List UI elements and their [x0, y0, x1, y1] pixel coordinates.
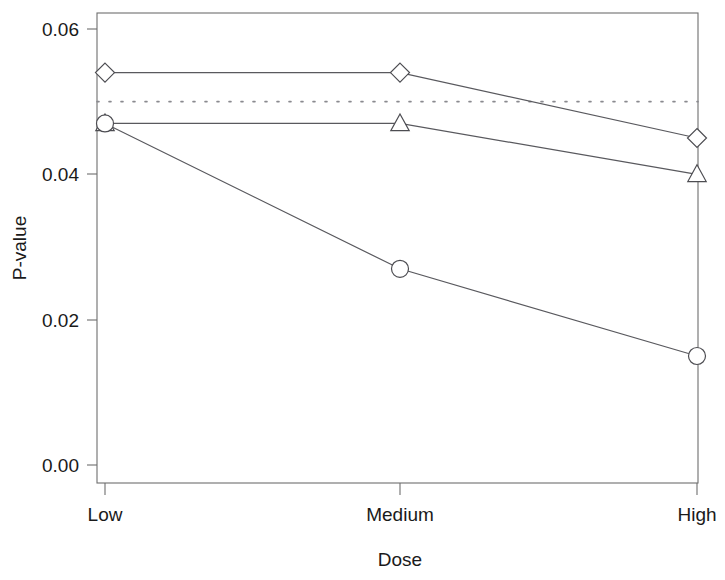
- chart-background: [0, 0, 725, 580]
- y-axis-title: P-value: [9, 216, 30, 280]
- chart-container: 0.06 0.04 0.02 0.00 P-value Low Medium H…: [0, 0, 725, 580]
- data-point-circle-medium: [392, 260, 409, 277]
- y-tick-label-0: 0.00: [42, 455, 79, 476]
- y-tick-label-3: 0.06: [42, 19, 79, 40]
- y-tick-label-2: 0.04: [42, 164, 79, 185]
- x-tick-label-high: High: [677, 504, 716, 525]
- x-tick-label-low: Low: [88, 504, 123, 525]
- x-axis-title: Dose: [378, 549, 422, 570]
- data-point-circle-high: [689, 348, 706, 365]
- data-point-circle-low: [97, 115, 114, 132]
- y-tick-label-1: 0.02: [42, 310, 79, 331]
- x-tick-label-medium: Medium: [366, 504, 434, 525]
- pvalue-dose-line-chart: 0.06 0.04 0.02 0.00 P-value Low Medium H…: [0, 0, 725, 580]
